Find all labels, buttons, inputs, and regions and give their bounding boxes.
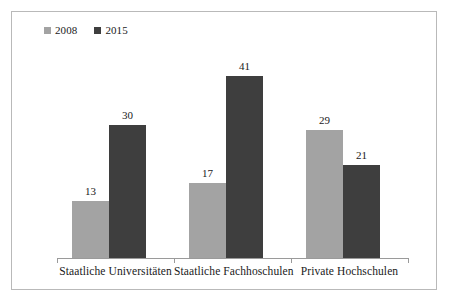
category-label-0: Staatliche Universitäten [57,265,174,278]
bar-group-staatliche-fachhoschulen: 17 41 [174,12,291,259]
bar-wrap-2008-g2: 29 [306,12,343,259]
legend-swatch-2008 [44,27,51,34]
category-label-2: Private Hochschulen [291,265,408,278]
legend-label-2008: 2008 [55,25,77,36]
category-label-1: Staatliche Fachhoschulen [174,265,291,278]
bar-2008-g2 [306,130,343,259]
axis-tick-start [57,258,58,263]
plot-area: 13 30 17 41 [12,12,436,289]
legend-label-2015: 2015 [105,25,127,36]
bar-2008-g0 [72,201,109,259]
bars-layer: 13 30 17 41 [12,12,436,259]
value-label-2015-g0: 30 [109,110,146,121]
bar-group-staatliche-universitaeten: 13 30 [57,12,174,259]
bar-group-private-hochschulen: 29 21 [291,12,408,259]
value-label-2008-g2: 29 [306,115,343,126]
value-label-2008-g1: 17 [189,168,226,179]
x-axis-line [57,258,409,259]
bar-wrap-2008-g0: 13 [72,12,109,259]
bar-wrap-2008-g1: 17 [189,12,226,259]
bar-2008-g1 [189,183,226,259]
value-label-2008-g0: 13 [72,186,109,197]
bar-2015-g1 [226,76,263,259]
legend-swatch-2015 [94,27,101,34]
axis-tick-2 [291,258,292,263]
value-label-2015-g2: 21 [343,150,380,161]
legend-item-2015: 2015 [94,25,127,36]
bar-wrap-2015-g2: 21 [343,12,380,259]
chart-legend: 2008 2015 [44,25,128,36]
bar-2015-g2 [343,165,380,259]
bar-wrap-2015-g0: 30 [109,12,146,259]
legend-item-2008: 2008 [44,25,77,36]
bar-chart: 2008 2015 13 30 17 [0,0,449,307]
axis-tick-1 [174,258,175,263]
axis-tick-end [408,258,409,263]
value-label-2015-g1: 41 [226,61,263,72]
bar-wrap-2015-g1: 41 [226,12,263,259]
bar-2015-g0 [109,125,146,259]
